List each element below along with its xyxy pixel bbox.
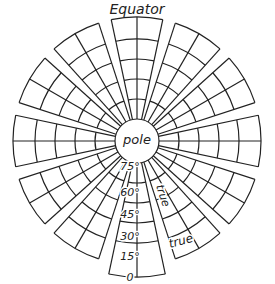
latitude-label: 45° bbox=[120, 208, 140, 221]
equator-title: Equator bbox=[110, 1, 166, 17]
polar-gore-diagram: pole Equator 75°60°45°30°15°0 truetrue bbox=[0, 0, 275, 284]
latitude-label: 15° bbox=[120, 250, 140, 263]
latitude-label: 30° bbox=[120, 230, 140, 243]
latitude-label: 0 bbox=[127, 271, 134, 284]
true-annotations: truetrue bbox=[153, 183, 194, 251]
true-label-meridian: true bbox=[153, 183, 172, 209]
pole-label: pole bbox=[122, 132, 151, 147]
latitude-label: 60° bbox=[120, 186, 140, 199]
true-label-parallel: true bbox=[167, 231, 194, 251]
latitude-label: 75° bbox=[120, 160, 140, 173]
